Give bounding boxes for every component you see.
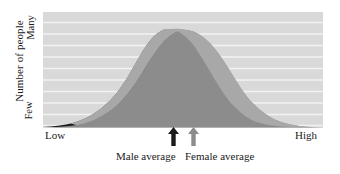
distribution-chart-figure: Number of people Many Few: [0, 0, 340, 174]
plot-area: [43, 12, 323, 128]
y-tick-label-many: Many: [25, 10, 36, 46]
male-average-up-arrow-icon: [167, 127, 180, 146]
female-average-up-arrow-icon: [187, 127, 200, 146]
y-tick-label-few: Few: [23, 96, 34, 126]
x-tick-label-low: Low: [45, 129, 65, 141]
male-average-label: Male average: [116, 150, 176, 162]
female-average-label: Female average: [185, 150, 254, 162]
female-distribution-area: [43, 30, 323, 127]
x-tick-label-high: High: [295, 129, 317, 141]
distribution-curves-svg: [43, 12, 323, 128]
